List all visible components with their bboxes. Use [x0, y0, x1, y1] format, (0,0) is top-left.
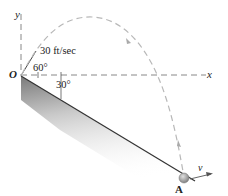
- launch-angle-label: 60°: [33, 63, 48, 74]
- origin-label: O: [9, 69, 17, 80]
- speed-label: 30 ft/sec: [40, 46, 76, 57]
- trajectory-arrow-icon: [126, 38, 131, 44]
- velocity-label: v: [198, 163, 202, 173]
- velocity-arrowhead-icon: [206, 172, 213, 177]
- diagram-canvas: [0, 0, 228, 196]
- trajectory-arrow-icon: [177, 140, 181, 147]
- incline-surface: [21, 76, 195, 181]
- x-axis-label: x: [207, 69, 212, 80]
- incline-angle-label: 30°: [56, 80, 71, 91]
- incline-body: [21, 76, 195, 192]
- y-axis-label: y: [15, 9, 20, 20]
- point-a-label: A: [175, 184, 183, 195]
- ball: [179, 173, 189, 183]
